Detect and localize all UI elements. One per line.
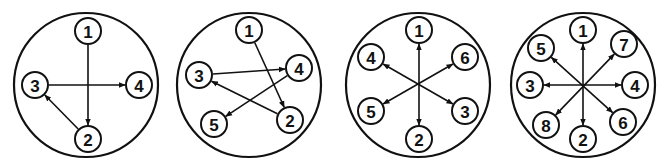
node-6: 6	[610, 109, 636, 135]
diagram-canvas: 12341234512345612345678	[0, 0, 666, 164]
diagram-3: 123456	[346, 13, 490, 157]
node-label: 4	[134, 77, 144, 96]
node-label: 2	[578, 131, 587, 150]
arrow-edge-3-4	[213, 69, 285, 74]
node-1: 1	[236, 17, 262, 43]
node-4: 4	[286, 55, 312, 81]
node-label: 7	[619, 36, 628, 55]
diagram-group: 12341234512345612345678	[14, 13, 655, 157]
node-label: 1	[414, 22, 423, 41]
node-label: 3	[194, 67, 203, 86]
node-1: 1	[570, 17, 596, 43]
node-4: 4	[126, 72, 152, 98]
node-3: 3	[186, 62, 212, 88]
node-2: 2	[406, 126, 432, 152]
node-label: 1	[578, 22, 587, 41]
node-label: 5	[366, 103, 375, 122]
node-7: 7	[611, 31, 637, 57]
node-label: 1	[244, 22, 253, 41]
node-3: 3	[22, 72, 48, 98]
node-4: 4	[358, 44, 384, 70]
node-5: 5	[528, 35, 554, 61]
node-label: 3	[525, 77, 534, 96]
node-label: 8	[541, 117, 550, 136]
node-2: 2	[277, 107, 303, 133]
node-label: 3	[460, 103, 469, 122]
node-label: 2	[414, 131, 423, 150]
node-label: 6	[618, 114, 627, 133]
node-6: 6	[452, 44, 478, 70]
arrow-edge-2-3	[212, 81, 278, 114]
arrow-edge-2-3	[45, 95, 78, 129]
node-4: 4	[622, 72, 648, 98]
arrow-edge-4-5	[226, 76, 288, 117]
node-5: 5	[201, 111, 227, 137]
node-1: 1	[75, 18, 101, 44]
node-label: 5	[536, 40, 545, 59]
diagram-2: 12345	[177, 13, 321, 157]
node-label: 4	[630, 77, 640, 96]
node-label: 2	[285, 112, 294, 131]
arrow-edge-1-2	[255, 43, 284, 108]
node-label: 4	[366, 49, 376, 68]
node-1: 1	[406, 17, 432, 43]
node-8: 8	[533, 112, 559, 138]
node-label: 1	[83, 23, 92, 42]
node-label: 6	[460, 49, 469, 68]
node-5: 5	[358, 98, 384, 124]
node-2: 2	[570, 126, 596, 152]
node-3: 3	[517, 72, 543, 98]
node-2: 2	[75, 126, 101, 152]
node-label: 4	[294, 60, 304, 79]
node-label: 2	[83, 131, 92, 150]
node-label: 5	[209, 116, 218, 135]
node-label: 3	[30, 77, 39, 96]
diagram-4: 12345678	[511, 13, 655, 157]
diagram-1: 1234	[14, 13, 158, 157]
node-3: 3	[452, 98, 478, 124]
